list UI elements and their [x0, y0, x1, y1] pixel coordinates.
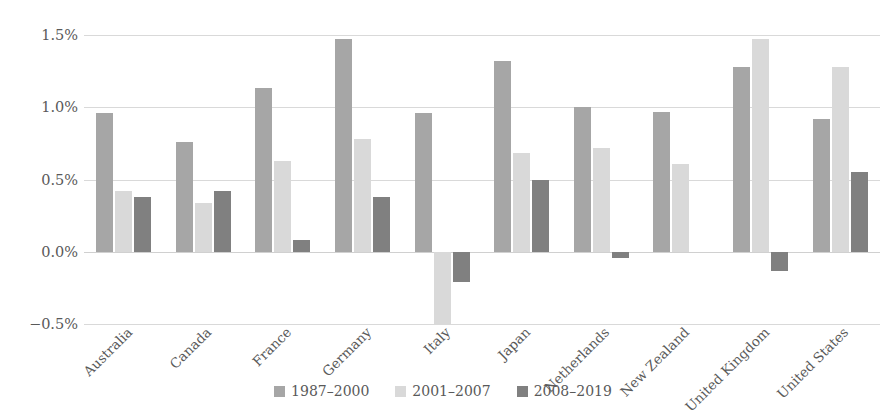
bar [415, 113, 432, 252]
legend-label: 2001–2007 [412, 383, 490, 399]
y-axis-tick-label: −0.5% [8, 316, 78, 332]
bar [255, 88, 272, 251]
legend-swatch-icon [395, 386, 406, 397]
bar-group [402, 35, 482, 324]
legend-item: 2001–2007 [395, 383, 490, 399]
y-axis-tick-label: 0.0% [8, 244, 78, 260]
bar [733, 67, 750, 252]
bar [293, 240, 310, 252]
bar [354, 139, 371, 252]
bar [672, 164, 689, 252]
legend-swatch-icon [517, 386, 528, 397]
bar [373, 197, 390, 252]
legend-item: 2008–2019 [517, 383, 612, 399]
bar-group [721, 35, 801, 324]
bar [176, 142, 193, 252]
legend-item: 1987–2000 [274, 383, 369, 399]
bar [453, 252, 470, 282]
bar [832, 67, 849, 252]
bar-group [482, 35, 562, 324]
legend-label: 1987–2000 [291, 383, 369, 399]
y-axis-tick-label: 0.5% [8, 172, 78, 188]
bar [134, 197, 151, 252]
bar [771, 252, 788, 271]
bar [274, 161, 291, 252]
bar [653, 112, 670, 252]
bar-chart: 1.5%1.0%0.5%0.0%−0.5% AustraliaCanadaFra… [0, 0, 886, 418]
bar [574, 107, 591, 252]
bar-group [323, 35, 403, 324]
legend-swatch-icon [274, 386, 285, 397]
bar [434, 252, 451, 324]
bar [195, 203, 212, 252]
y-axis: 1.5%1.0%0.5%0.0%−0.5% [0, 0, 78, 418]
bar-group [800, 35, 880, 324]
bar [612, 252, 629, 258]
bar [593, 148, 610, 252]
bar-group [164, 35, 244, 324]
bar [115, 191, 132, 252]
bar [96, 113, 113, 252]
legend-label: 2008–2019 [534, 383, 612, 399]
y-axis-tick-label: 1.5% [8, 27, 78, 43]
plot-area [84, 35, 880, 324]
chart-legend: 1987–20002001–20072008–2019 [0, 383, 886, 399]
bar [494, 61, 511, 252]
bar-group [84, 35, 164, 324]
bar [752, 39, 769, 251]
bar [214, 191, 231, 252]
y-axis-tick-label: 1.0% [8, 99, 78, 115]
bar [335, 39, 352, 251]
bar [813, 119, 830, 252]
bar-group [641, 35, 721, 324]
bar [513, 153, 530, 251]
bar [851, 172, 868, 251]
bar-group [243, 35, 323, 324]
bar-group [562, 35, 642, 324]
bar [532, 180, 549, 252]
